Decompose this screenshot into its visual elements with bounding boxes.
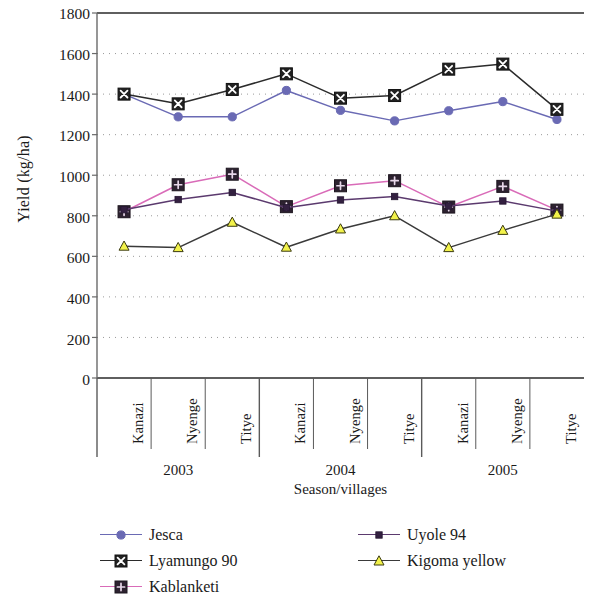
village-label-titye: Titye [401, 413, 418, 444]
legend-item-uyole-94[interactable]: Uyole 94 [358, 527, 466, 543]
legend-label: Kigoma yellow [407, 553, 506, 569]
series-kablanketi [118, 168, 563, 218]
legend-label: Lyamungo 90 [149, 553, 237, 569]
chart-legend: JescaLyamungo 90KablanketiUyole 94Kigoma… [100, 527, 580, 601]
year-label-2003: 2003 [97, 462, 259, 479]
legend-item-kigoma-yellow[interactable]: Kigoma yellow [358, 553, 506, 569]
legend-swatch-small-square-icon [358, 529, 400, 541]
series-uyole-94 [121, 189, 560, 214]
legend-item-lyamungo-90[interactable]: Lyamungo 90 [100, 553, 237, 569]
village-label-kanazi: Kanazi [130, 402, 147, 444]
legend-swatch-circle-icon [100, 529, 142, 541]
legend-label: Uyole 94 [407, 527, 466, 543]
legend-label: Kablanketi [149, 579, 219, 595]
series-kigoma-yellow [119, 209, 562, 252]
axis-frame [92, 13, 584, 378]
year-label-2004: 2004 [259, 462, 421, 479]
village-label-kanazi: Kanazi [292, 402, 309, 444]
village-label-nyenge: Nyenge [184, 398, 201, 444]
data-series-layer [118, 58, 563, 252]
yield-line-chart: Yield (kg/ha) 1800 1600 1400 1200 1000 8… [0, 0, 594, 604]
village-label-nyenge: Nyenge [347, 398, 364, 444]
year-label-2005: 2005 [422, 462, 584, 479]
legend-label: Jesca [149, 527, 183, 543]
village-label-kanazi: Kanazi [455, 402, 472, 444]
legend-item-jesca[interactable]: Jesca [100, 527, 183, 543]
x-axis-title: Season/villages [97, 481, 584, 498]
village-label-nyenge: Nyenge [509, 398, 526, 444]
legend-swatch-square-plus-icon [100, 581, 142, 593]
legend-swatch-triangle-icon [358, 555, 400, 567]
legend-swatch-square-x-icon [100, 555, 142, 567]
village-label-titye: Titye [563, 413, 580, 444]
plot-area [0, 0, 594, 460]
legend-item-kablanketi[interactable]: Kablanketi [100, 579, 219, 595]
village-label-titye: Titye [238, 413, 255, 444]
